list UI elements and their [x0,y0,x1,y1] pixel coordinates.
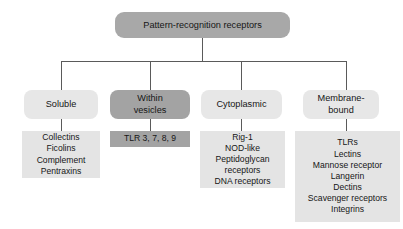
category-node-soluble: Soluble [24,90,98,119]
category-label-line: Membrane- [303,93,379,105]
connector-horizontal-bus [61,61,346,62]
list-items-soluble: Collectins Ficolins Complement Pentraxin… [24,132,98,177]
category-label-soluble: Soluble [46,99,77,110]
list-item: Dectins [297,182,398,193]
list-items-within-vesicles: TLR 3, 7, 8, 9 [112,133,188,144]
connector-membrane-bound-to-list [346,119,347,131]
category-label-cytoplasmic: Cytoplasmic [216,99,266,110]
category-label-line: vesicles [110,105,190,117]
list-box-within-vesicles: TLR 3, 7, 8, 9 [110,131,190,147]
category-node-membrane-bound: Membrane- bound [303,90,379,119]
list-items-membrane-bound: TLRs Lectins Mannose receptor Langerin D… [297,137,398,215]
list-items-cytoplasmic: Rig-1 NOD-like Peptidoglycan receptors D… [202,132,283,188]
list-item: Lectins [297,149,398,160]
root-node-pattern-recognition-receptors: Pattern-recognition receptors [115,12,290,38]
connector-drop-membrane-bound [346,61,347,90]
connector-root-trunk [202,38,203,61]
connector-drop-within-vesicles [150,61,151,90]
list-item: Pentraxins [24,166,98,177]
connector-cytoplasmic-to-list [241,119,242,131]
connector-soluble-to-list [61,119,62,131]
list-box-membrane-bound: TLRs Lectins Mannose receptor Langerin D… [295,131,400,222]
list-item: receptors [202,165,283,176]
list-item: Collectins [24,132,98,143]
connector-within-vesicles-to-list [150,119,151,131]
list-item: Mannose receptor [297,160,398,171]
category-label-line: bound [303,105,379,117]
list-box-cytoplasmic: Rig-1 NOD-like Peptidoglycan receptors D… [200,131,285,188]
category-label-line: Within [110,93,190,105]
list-item: TLR 3, 7, 8, 9 [112,133,188,144]
list-item: Langerin [297,171,398,182]
list-item: Peptidoglycan [202,154,283,165]
pattern-recognition-receptors-diagram: Pattern-recognition receptors Soluble Co… [0,0,403,229]
root-node-label: Pattern-recognition receptors [143,20,261,31]
list-item: NOD-like [202,143,283,154]
list-item: Complement [24,155,98,166]
category-label-membrane-bound: Membrane- bound [303,93,379,117]
list-item: TLRs [297,137,398,148]
list-item: Rig-1 [202,132,283,143]
list-item: Integrins [297,204,398,215]
list-item: Ficolins [24,143,98,154]
connector-drop-soluble [61,61,62,90]
category-label-within-vesicles: Within vesicles [110,93,190,117]
list-box-soluble: Collectins Ficolins Complement Pentraxin… [22,131,100,178]
connector-drop-cytoplasmic [241,61,242,90]
category-node-within-vesicles: Within vesicles [110,90,190,119]
category-node-cytoplasmic: Cytoplasmic [201,90,282,119]
list-item: Scavenger receptors [297,193,398,204]
list-item: DNA receptors [202,176,283,187]
